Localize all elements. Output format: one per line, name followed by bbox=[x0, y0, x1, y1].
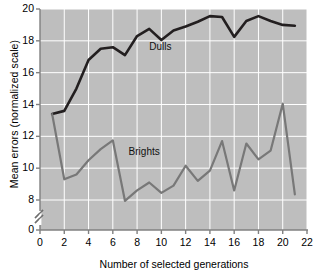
series-annotation-dulls: Dulls bbox=[149, 41, 171, 52]
series-annotation-brights: Brights bbox=[129, 146, 160, 157]
plot-background bbox=[40, 9, 307, 230]
x-axis-label: Number of selected generations bbox=[40, 258, 308, 270]
chart-figure: Mean errors (normalized scale) 081012141… bbox=[0, 0, 319, 278]
